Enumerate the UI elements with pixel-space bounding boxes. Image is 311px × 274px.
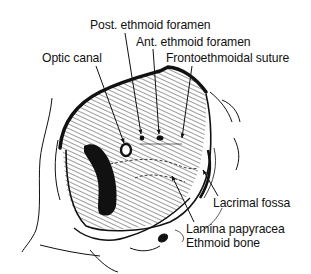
label-optic-canal: Optic canal xyxy=(42,52,102,65)
label-lamina-papyracea: Lamina papyracea xyxy=(186,223,285,236)
orbit-diagram: Post. ethmoid foramen Ant. ethmoid foram… xyxy=(0,0,311,274)
label-ethmoid-bone: Ethmoid bone xyxy=(186,237,260,250)
medial-orbital-wall xyxy=(60,67,216,240)
label-ant-ethmoid-foramen: Ant. ethmoid foramen xyxy=(136,36,251,49)
label-frontoethmoidal-suture: Frontoethmoidal suture xyxy=(166,52,289,65)
label-lacrimal-fossa: Lacrimal fossa xyxy=(213,197,290,210)
label-post-ethmoid-foramen: Post. ethmoid foramen xyxy=(90,19,211,32)
